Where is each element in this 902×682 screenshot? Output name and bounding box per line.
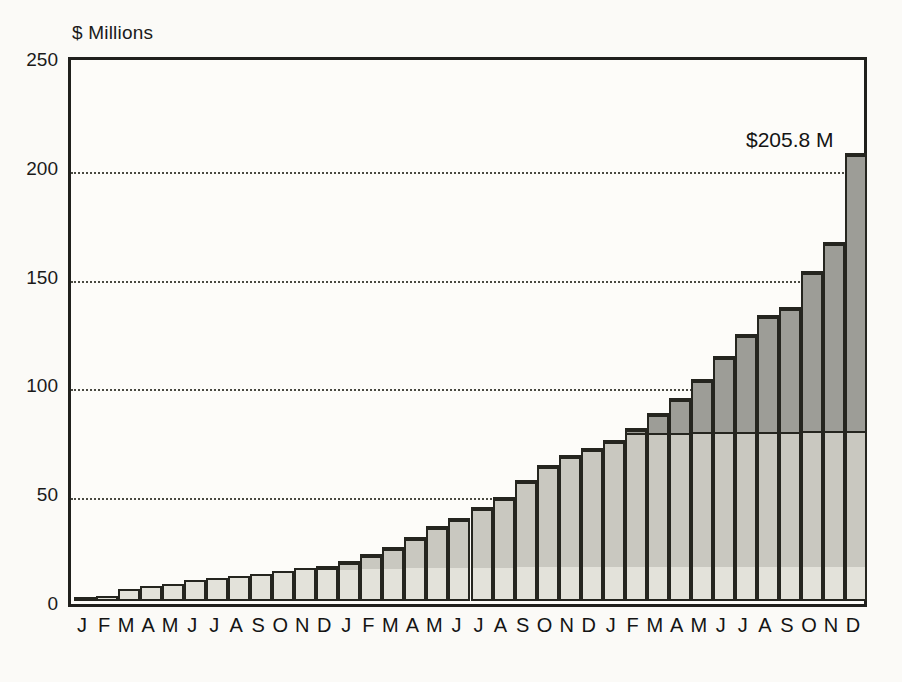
value-annotation: $205.8 M: [746, 128, 834, 152]
bar-segment-mid: [649, 433, 667, 567]
bar: [184, 580, 206, 601]
bar: [537, 465, 559, 601]
bar-segment-base: [803, 567, 821, 599]
bar-segment-base: [605, 567, 623, 599]
x-axis-tick-label: N: [291, 614, 313, 637]
bar-segment-base: [561, 567, 579, 599]
x-axis-tick-label: J: [600, 614, 622, 637]
x-axis-tick-label: J: [203, 614, 225, 637]
bar: [96, 596, 118, 601]
bar-segment-base: [384, 569, 402, 599]
x-axis-tick-label: A: [225, 614, 247, 637]
bar-segment-base: [98, 598, 116, 599]
bar-segment-base: [693, 567, 711, 599]
bar-segment-base: [539, 567, 557, 599]
bar-segment-base: [825, 567, 843, 599]
bar: [779, 307, 801, 601]
y-axis-unit-label: $ Millions: [72, 22, 153, 44]
bar-segment-mid: [539, 467, 557, 567]
bar-segment-base: [406, 568, 424, 599]
x-axis-tick-label: S: [247, 614, 269, 637]
bar-segment-top: [847, 155, 865, 431]
x-axis-tick-label: O: [534, 614, 556, 637]
x-axis-tick-label: J: [445, 614, 467, 637]
bar: [404, 537, 426, 601]
bar: [515, 480, 537, 601]
bar-segment-mid: [803, 431, 821, 566]
bar-segment-top: [803, 273, 821, 431]
x-axis-tick-label: F: [357, 614, 379, 637]
y-axis-tick-label: 50: [0, 484, 58, 506]
bar-segment-mid: [406, 539, 424, 569]
x-axis-tick-label: M: [159, 614, 181, 637]
bar-segment-base: [186, 582, 204, 599]
bar: [801, 271, 823, 601]
bar-segment-mid: [605, 442, 623, 567]
bar-segment-mid: [627, 433, 645, 567]
bar-segment-mid: [693, 432, 711, 567]
x-axis-tick-label: D: [578, 614, 600, 637]
bar-segment-base: [473, 568, 491, 599]
bar: [448, 518, 470, 601]
x-axis-tick-label: M: [644, 614, 666, 637]
bar-segment-top: [649, 415, 667, 433]
bar-segment-mid: [517, 482, 535, 567]
bar-segment-base: [120, 591, 138, 599]
x-axis-tick-label: D: [313, 614, 335, 637]
bar: [735, 334, 757, 601]
bar-segment-base: [495, 568, 513, 599]
x-axis-tick-label: M: [688, 614, 710, 637]
bar-segment-mid: [583, 450, 601, 568]
x-axis-tick-label: N: [820, 614, 842, 637]
x-axis-tick-label: N: [556, 614, 578, 637]
bar: [206, 578, 228, 601]
x-axis-tick-label: A: [666, 614, 688, 637]
x-axis-tick-label: A: [401, 614, 423, 637]
bar: [140, 586, 162, 601]
bar: [757, 315, 779, 601]
bar-segment-base: [671, 567, 689, 599]
bar-segment-top: [781, 309, 799, 431]
bar-segment-top: [825, 244, 843, 431]
bar-segment-base: [627, 567, 645, 599]
bar: [559, 455, 581, 601]
bar-segment-base: [362, 569, 380, 599]
bar-segment-mid: [362, 556, 380, 569]
bar: [625, 428, 647, 601]
bar-segment-base: [517, 567, 535, 599]
bar: [845, 153, 867, 601]
bar-segment-mid: [759, 432, 777, 567]
bar-segment-top: [759, 317, 777, 432]
x-axis-tick-label: J: [71, 614, 93, 637]
x-axis-tick-label: S: [776, 614, 798, 637]
bar-segment-base: [737, 567, 755, 599]
bar: [823, 242, 845, 601]
bar-segment-mid: [737, 432, 755, 567]
bar-segment-mid: [495, 499, 513, 568]
bar-segment-top: [693, 381, 711, 432]
x-axis-tick-label: A: [490, 614, 512, 637]
x-axis-tick-label: A: [754, 614, 776, 637]
bar-segment-mid: [671, 433, 689, 567]
x-axis-tick-label: J: [732, 614, 754, 637]
bar: [382, 547, 404, 601]
bar-segment-base: [208, 580, 226, 599]
bar: [471, 507, 493, 601]
x-axis-tick-label: A: [137, 614, 159, 637]
bar-segment-base: [781, 567, 799, 599]
bar: [713, 356, 735, 601]
bar: [603, 440, 625, 601]
y-axis-tick-label: 0: [0, 593, 58, 615]
x-axis-tick-label: D: [842, 614, 864, 637]
bar-segment-base: [142, 588, 160, 599]
bar-segment-base: [583, 567, 601, 599]
x-axis-labels: JFMAMJJASONDJFMAMJJASONDJFMAMJJASOND: [68, 614, 867, 654]
bar-segment-mid: [428, 528, 446, 568]
bar-segment-base: [252, 576, 270, 599]
bar-segment-mid: [384, 549, 402, 569]
bar-segment-base: [230, 578, 248, 599]
bar-segment-top: [737, 336, 755, 431]
bar-segment-mid: [715, 432, 733, 567]
bar: [228, 576, 250, 601]
x-axis-tick-label: J: [468, 614, 490, 637]
